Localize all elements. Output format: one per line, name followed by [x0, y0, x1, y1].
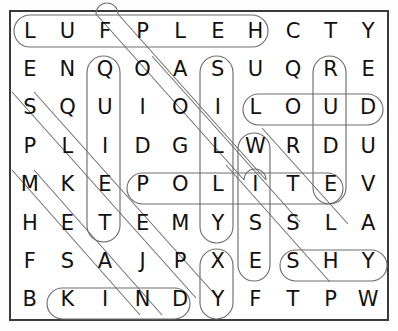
grid-cell[interactable]: I — [237, 166, 275, 204]
grid-cell[interactable]: E — [237, 242, 275, 280]
grid-cell[interactable]: W — [237, 127, 275, 165]
grid-cell[interactable]: L — [49, 127, 87, 165]
grid-cell[interactable]: L — [199, 127, 237, 165]
grid-cell[interactable]: Y — [199, 204, 237, 242]
word-search-puzzle: L U F P L E H C T Y E N Q O A S U Q R E … — [0, 0, 398, 331]
grid-cell[interactable]: O — [124, 50, 162, 88]
grid-cell[interactable]: U — [349, 127, 387, 165]
grid-cell[interactable]: C — [274, 12, 312, 50]
grid-cell[interactable]: H — [11, 204, 49, 242]
grid-cell[interactable]: Q — [274, 50, 312, 88]
grid-cell[interactable]: T — [274, 281, 312, 319]
grid-cell[interactable]: R — [312, 50, 350, 88]
grid-cell[interactable]: G — [161, 127, 199, 165]
grid-cell[interactable]: L — [199, 166, 237, 204]
grid-cell[interactable]: I — [86, 127, 124, 165]
grid-cell[interactable]: E — [124, 204, 162, 242]
grid-cell[interactable]: M — [11, 166, 49, 204]
grid-cell[interactable]: P — [312, 281, 350, 319]
grid-cell[interactable]: I — [124, 89, 162, 127]
grid-cell[interactable]: E — [312, 166, 350, 204]
grid-cell[interactable]: U — [86, 89, 124, 127]
grid-cell[interactable]: S — [274, 242, 312, 280]
grid-cell[interactable]: Y — [349, 242, 387, 280]
grid-cell[interactable]: S — [274, 204, 312, 242]
grid-cell[interactable]: H — [237, 12, 275, 50]
grid-cell[interactable]: P — [11, 127, 49, 165]
grid-cell[interactable]: O — [274, 89, 312, 127]
grid-cell[interactable]: D — [161, 281, 199, 319]
grid-cell[interactable]: U — [49, 12, 87, 50]
grid-cell[interactable]: O — [161, 166, 199, 204]
grid-cell[interactable]: U — [237, 50, 275, 88]
grid-cell[interactable]: E — [86, 166, 124, 204]
grid-cell[interactable]: O — [161, 89, 199, 127]
grid-cell[interactable]: N — [124, 281, 162, 319]
grid-cell[interactable]: A — [86, 242, 124, 280]
grid-cell[interactable]: T — [312, 12, 350, 50]
grid-cell[interactable]: S — [199, 50, 237, 88]
grid-cell[interactable]: Y — [349, 12, 387, 50]
grid-cell[interactable]: S — [237, 204, 275, 242]
grid-cell[interactable]: A — [349, 204, 387, 242]
grid-cell[interactable]: I — [86, 281, 124, 319]
grid-cell[interactable]: K — [49, 281, 87, 319]
grid-cell[interactable]: L — [237, 89, 275, 127]
grid-cell[interactable]: A — [161, 50, 199, 88]
grid-cell[interactable]: F — [237, 281, 275, 319]
grid-cell[interactable]: V — [349, 166, 387, 204]
grid-cell[interactable]: X — [199, 242, 237, 280]
grid-cell[interactable]: D — [312, 127, 350, 165]
grid-cell[interactable]: T — [86, 204, 124, 242]
grid-cell[interactable]: E — [11, 50, 49, 88]
grid-cell[interactable]: D — [124, 127, 162, 165]
grid-cell[interactable]: L — [11, 12, 49, 50]
grid-cell[interactable]: H — [312, 242, 350, 280]
grid-cell[interactable]: T — [274, 166, 312, 204]
grid-cell[interactable]: L — [312, 204, 350, 242]
grid-cell[interactable]: F — [86, 12, 124, 50]
grid-cell[interactable]: E — [349, 50, 387, 88]
grid-cell[interactable]: E — [49, 204, 87, 242]
grid-cell[interactable]: Q — [49, 89, 87, 127]
grid-cell[interactable]: M — [161, 204, 199, 242]
grid-cell[interactable]: D — [349, 89, 387, 127]
grid-cell[interactable]: S — [49, 242, 87, 280]
grid-cell[interactable]: P — [124, 166, 162, 204]
grid-cell[interactable]: W — [349, 281, 387, 319]
grid-cell[interactable]: L — [161, 12, 199, 50]
letter-grid: L U F P L E H C T Y E N Q O A S U Q R E … — [11, 12, 387, 319]
grid-cell[interactable]: P — [161, 242, 199, 280]
grid-cell[interactable]: R — [274, 127, 312, 165]
grid-cell[interactable]: S — [11, 89, 49, 127]
grid-cell[interactable]: Y — [199, 281, 237, 319]
grid-cell[interactable]: N — [49, 50, 87, 88]
grid-cell[interactable]: E — [199, 12, 237, 50]
grid-cell[interactable]: I — [199, 89, 237, 127]
grid-cell[interactable]: P — [124, 12, 162, 50]
grid-cell[interactable]: K — [49, 166, 87, 204]
grid-cell[interactable]: B — [11, 281, 49, 319]
grid-cell[interactable]: F — [11, 242, 49, 280]
grid-cell[interactable]: J — [124, 242, 162, 280]
grid-cell[interactable]: U — [312, 89, 350, 127]
grid-cell[interactable]: Q — [86, 50, 124, 88]
